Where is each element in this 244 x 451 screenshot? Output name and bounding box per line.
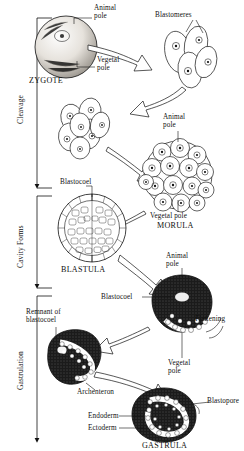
label-blastopore: Blastopore: [207, 397, 239, 405]
caption-zygote: ZYGOTE: [29, 76, 63, 85]
mid-gastrula-remnant-blastocoel: [57, 347, 66, 354]
morula-stage: [139, 139, 215, 213]
embryo-development-diagram: Cleavage Cavity Forms Gastrulation Anima…: [0, 0, 244, 451]
label-endoderm: Endoderm: [88, 412, 119, 420]
stage-label-cleavage: Cleavage: [16, 95, 25, 124]
gastrula-stage: [132, 388, 199, 442]
label-blastocoel-early-gastrula: Blastocoel: [101, 293, 132, 301]
eight-cell-stage: [57, 97, 112, 159]
label-animal-pole-zygote: Animal pole: [94, 4, 116, 21]
mid-gastrula-stage: [48, 330, 101, 385]
label-blastomeres: Blastomeres: [155, 11, 192, 19]
stage-label-cavity-forms: Cavity Forms: [16, 225, 25, 268]
caption-blastula: BLASTULA: [61, 265, 105, 274]
diagram-canvas: [0, 0, 244, 451]
blastomeres-stage: [161, 24, 220, 89]
early-gastrula-stage: [152, 275, 212, 333]
label-ectoderm: Ectoderm: [88, 424, 117, 432]
arrow-early-to-mid-gastrula: [94, 327, 150, 354]
caption-gastrula: GASTRULA: [142, 441, 187, 450]
label-remnant-of-blastocoel: Remnant of blastocoel: [26, 308, 61, 325]
blastula-stage: [58, 194, 126, 262]
label-archenteron: Archenteron: [77, 388, 114, 396]
label-blastocoel-blastula: Blastocoel: [60, 178, 91, 186]
label-vegetal-pole-early-gastrula: Vegetal pole: [168, 359, 190, 376]
label-animal-pole-early-gastrula: Animal pole: [166, 252, 188, 269]
label-vegetal-pole-zygote: Vegetal pole: [97, 56, 119, 73]
label-animal-pole-morula: Animal pole: [163, 113, 185, 130]
label-flattening: Flattening: [195, 315, 225, 323]
stage-label-gastrulation: Gastrulation: [16, 351, 25, 390]
caption-morula: MORULA: [157, 221, 194, 230]
stage-axis-cavity: [37, 196, 52, 288]
leader-flattening-2: [209, 326, 223, 338]
early-gastrula-blastocoel: [175, 293, 189, 302]
label-vegetal-pole-morula: Vegetal pole: [150, 212, 187, 220]
